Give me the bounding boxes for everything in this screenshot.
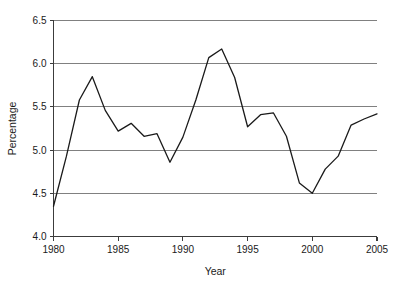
y-axis-title: Percentage — [6, 101, 18, 155]
data-series-line — [54, 49, 378, 206]
x-tick-label: 1990 — [172, 244, 195, 255]
gridlines-group — [54, 21, 378, 194]
x-tick-label: 1980 — [42, 244, 65, 255]
x-axis-tick-labels: 198019851990199520002005 — [42, 244, 388, 255]
line-chart: 4.04.55.05.56.06.5 198019851990199520002… — [0, 0, 394, 283]
x-axis-title: Year — [205, 265, 227, 277]
y-tick-label: 5.0 — [33, 145, 47, 156]
y-tick-label: 6.0 — [33, 58, 47, 69]
chart-canvas: 4.04.55.05.56.06.5 198019851990199520002… — [0, 0, 394, 283]
y-tick-label: 6.5 — [33, 15, 47, 26]
tick-marks-group — [50, 21, 378, 241]
y-tick-label: 4.0 — [33, 231, 47, 242]
x-tick-label: 2000 — [301, 244, 324, 255]
y-tick-label: 5.5 — [33, 101, 47, 112]
x-tick-label: 1995 — [236, 244, 259, 255]
x-tick-label: 1985 — [107, 244, 130, 255]
x-tick-label: 2005 — [366, 244, 389, 255]
y-axis-tick-labels: 4.04.55.05.56.06.5 — [33, 15, 47, 242]
y-tick-label: 4.5 — [33, 188, 47, 199]
